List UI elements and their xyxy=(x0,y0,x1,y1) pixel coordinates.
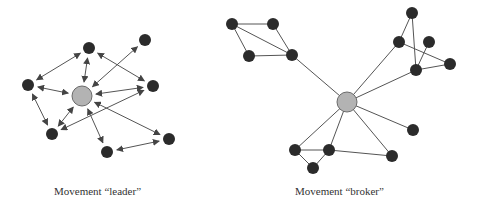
node xyxy=(307,162,319,174)
edge xyxy=(249,55,292,56)
edge xyxy=(96,87,143,94)
edge xyxy=(58,107,73,126)
node xyxy=(393,36,405,48)
node xyxy=(243,50,255,62)
node xyxy=(139,34,151,46)
node xyxy=(444,58,456,70)
edge xyxy=(84,58,88,82)
node xyxy=(386,150,398,162)
edge xyxy=(347,70,416,102)
edge xyxy=(117,141,159,150)
node xyxy=(286,49,298,61)
node xyxy=(147,80,159,92)
edge xyxy=(329,150,392,156)
leader-network xyxy=(22,34,175,158)
edge xyxy=(92,47,137,87)
node xyxy=(163,133,175,145)
node xyxy=(410,64,422,76)
node xyxy=(226,18,238,30)
node xyxy=(407,124,419,136)
caption-leader: Movement “leader” xyxy=(54,185,141,197)
edge xyxy=(347,42,399,102)
central-node xyxy=(337,92,357,112)
edge xyxy=(95,102,160,134)
edge xyxy=(292,55,347,102)
edge xyxy=(347,102,413,130)
edge xyxy=(412,13,416,70)
edge xyxy=(98,53,145,81)
broker-network xyxy=(226,7,456,174)
edge xyxy=(32,94,47,125)
node xyxy=(46,128,58,140)
node xyxy=(423,36,435,48)
network-diagrams xyxy=(0,0,477,207)
edge xyxy=(295,102,347,150)
node xyxy=(83,42,95,54)
node xyxy=(101,146,113,158)
node xyxy=(22,79,34,91)
node xyxy=(289,144,301,156)
edge xyxy=(38,87,68,93)
caption-broker: Movement “broker” xyxy=(295,185,384,197)
node xyxy=(406,7,418,19)
node xyxy=(267,18,279,30)
edge xyxy=(347,102,392,156)
node xyxy=(323,144,335,156)
edge xyxy=(37,53,81,80)
central-node xyxy=(72,86,92,106)
